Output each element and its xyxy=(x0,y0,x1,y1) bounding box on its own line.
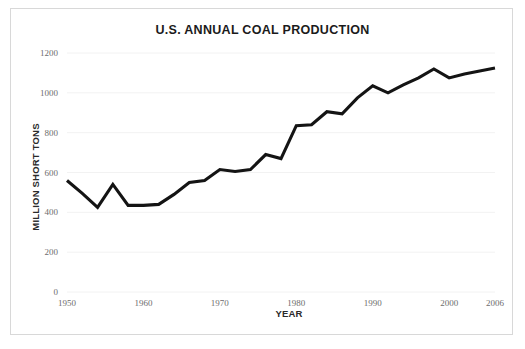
x-tick-label: 2006 xyxy=(486,298,505,308)
data-series-line xyxy=(67,68,495,207)
x-tick-label: 1960 xyxy=(134,298,153,308)
x-tick-label: 2000 xyxy=(440,298,459,308)
y-tick-label: 800 xyxy=(45,128,59,138)
y-tick-label: 0 xyxy=(54,287,59,297)
y-tick-label: 400 xyxy=(45,207,59,217)
x-tick-label: 1970 xyxy=(211,298,230,308)
coal-production-line-chart: 020040060080010001200 195019601970198019… xyxy=(11,9,514,336)
x-tick-label: 1990 xyxy=(364,298,383,308)
x-axis-tick-labels: 1950196019701980199020002006 xyxy=(58,298,505,308)
chart-figure-frame: U.S. ANNUAL COAL PRODUCTION 020040060080… xyxy=(10,8,513,335)
x-tick-label: 1950 xyxy=(58,298,77,308)
y-tick-label: 1200 xyxy=(40,48,59,58)
y-tick-label: 1000 xyxy=(40,88,59,98)
y-tick-label: 200 xyxy=(45,247,59,257)
y-axis-title: MILLION SHORT TONS xyxy=(30,123,41,230)
x-axis-title: YEAR xyxy=(275,308,302,319)
gridlines-group xyxy=(67,53,495,292)
y-tick-label: 600 xyxy=(45,168,59,178)
y-axis-tick-labels: 020040060080010001200 xyxy=(40,48,59,297)
x-tick-label: 1980 xyxy=(287,298,306,308)
